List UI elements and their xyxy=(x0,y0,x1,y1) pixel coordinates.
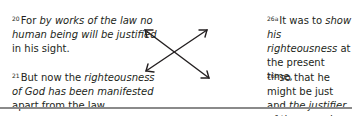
divider-line xyxy=(0,107,352,109)
crossing-arrows-icon xyxy=(0,0,352,116)
